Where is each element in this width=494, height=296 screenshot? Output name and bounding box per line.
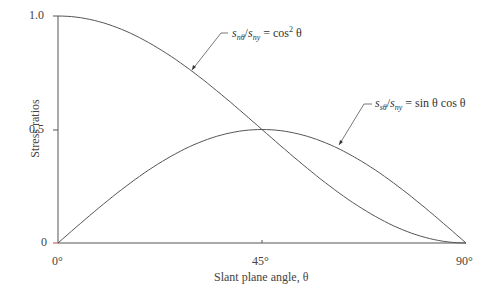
- x-axis-label: Slant plane angle, θ: [214, 270, 308, 285]
- sin-cos-curve: [58, 130, 466, 244]
- x-tick-label-45: 45°: [252, 254, 269, 269]
- y-tick-label-0: 0: [41, 235, 47, 250]
- annotation-leader-sincos: [339, 104, 372, 145]
- x-tick-label-0: 0°: [52, 254, 63, 269]
- annot-tail: θ: [293, 26, 302, 40]
- arrowhead-sincos: [339, 140, 343, 145]
- annotation-leader-cos2: [192, 33, 228, 70]
- annotation-cos2: snθ/sny = cos2 θ: [232, 25, 302, 42]
- y-axis-label: Stress ratios: [28, 89, 43, 169]
- annot-sub: nθ: [237, 33, 245, 42]
- annot-sub: sθ: [380, 103, 387, 112]
- annot-eq: = cos: [260, 26, 289, 40]
- chart-canvas: [0, 0, 494, 296]
- y-tick-label-1: 1.0: [29, 8, 44, 23]
- annotation-sincos: ssθ/sny = sin θ cos θ: [375, 96, 466, 112]
- x-tick-label-90: 90°: [456, 254, 473, 269]
- annot-eq: = sin θ cos θ: [402, 96, 465, 110]
